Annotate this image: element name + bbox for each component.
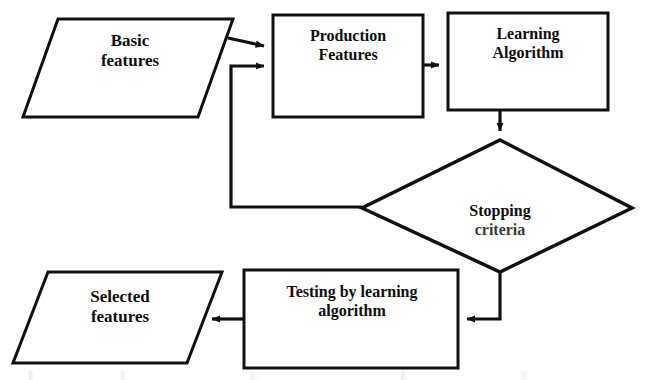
edge-basic-to-production [228,38,264,46]
edge-stopping-to-testing [467,272,500,319]
node-basic-features [23,19,233,117]
node-production-features [273,15,423,117]
flowchart-graphics [0,0,646,380]
node-learning-algorithm [448,13,608,110]
node-selected-features [13,272,222,363]
flowchart-canvas: Basic features Production Features Learn… [0,0,646,380]
node-stopping-criteria [362,140,632,272]
node-testing-by-learning-algorithm [244,270,458,368]
